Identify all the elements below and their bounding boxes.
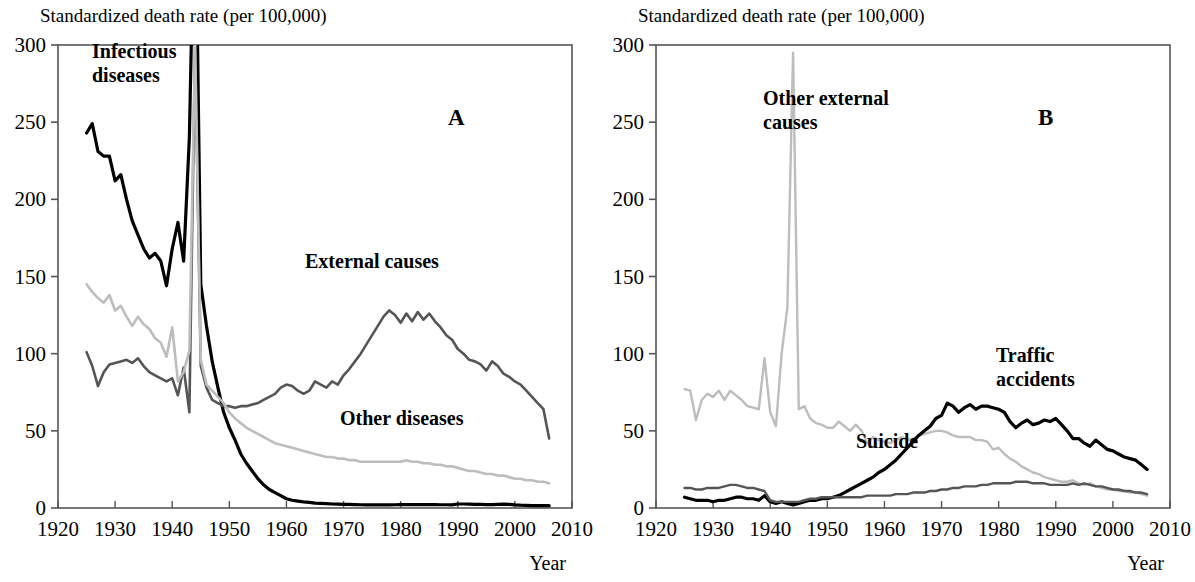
x-tick-label: 1960 (863, 517, 905, 541)
x-tick-label: 1990 (1035, 517, 1077, 541)
x-tick-label: 1980 (978, 517, 1020, 541)
x-tick-label: 1940 (749, 517, 791, 541)
x-tick-label: 1970 (323, 517, 365, 541)
x-axis-name: Year (529, 552, 566, 574)
x-tick-label: 2010 (1149, 517, 1191, 541)
y-tick-label: 50 (623, 419, 644, 443)
x-tick-label: 1940 (151, 517, 193, 541)
x-tick-label: 1950 (208, 517, 250, 541)
series-annotation-other-external-causes: Other externalcauses (763, 87, 889, 133)
panel-letter-a: A (448, 105, 465, 130)
panel-letter-b: B (1038, 105, 1053, 130)
x-tick-label: 1990 (437, 517, 479, 541)
y-tick-label: 100 (613, 342, 645, 366)
y-tick-label: 250 (15, 110, 47, 134)
figure-root: Standardized death rate (per 100,000) 05… (0, 0, 1195, 582)
x-tick-label: 1950 (806, 517, 848, 541)
y-tick-label: 200 (613, 187, 645, 211)
x-tick-label: 1930 (94, 517, 136, 541)
x-tick-label: 2000 (494, 517, 536, 541)
y-tick-label: 300 (15, 33, 47, 57)
y-tick-label: 200 (15, 187, 47, 211)
series-annotation-other-diseases: Other diseases (340, 407, 464, 429)
chart-panel-b: Standardized death rate (per 100,000) 05… (598, 0, 1195, 582)
x-tick-label: 1930 (692, 517, 734, 541)
x-tick-label: 1980 (380, 517, 422, 541)
series-annotation-external-causes: External causes (305, 250, 439, 272)
y-tick-label: 300 (613, 33, 645, 57)
y-tick-label: 250 (613, 110, 645, 134)
x-tick-label: 2000 (1092, 517, 1134, 541)
chart-panel-a: Standardized death rate (per 100,000) 05… (0, 0, 597, 582)
x-tick-label: 2010 (551, 517, 593, 541)
y-tick-label: 100 (15, 342, 47, 366)
y-tick-label: 50 (25, 419, 46, 443)
plot-frame (58, 45, 572, 508)
series-line-traffic-accidents (685, 403, 1148, 505)
x-tick-label: 1960 (265, 517, 307, 541)
panel-a-plot: 0501001502002503001920193019401950196019… (0, 0, 597, 582)
y-tick-label: 150 (15, 265, 47, 289)
series-annotation-traffic-accidents: Trafficaccidents (996, 344, 1075, 390)
x-tick-label: 1920 (635, 517, 677, 541)
series-annotation-suicide: Suicide (856, 430, 918, 452)
x-axis-name: Year (1127, 552, 1164, 574)
series-line-external-causes (87, 45, 550, 439)
series-annotation-infectious-diseases: Infectiousdiseases (92, 40, 177, 86)
panel-b-plot: 0501001502002503001920193019401950196019… (598, 0, 1195, 582)
x-tick-label: 1970 (921, 517, 963, 541)
x-tick-label: 1920 (37, 517, 79, 541)
y-tick-label: 150 (613, 265, 645, 289)
